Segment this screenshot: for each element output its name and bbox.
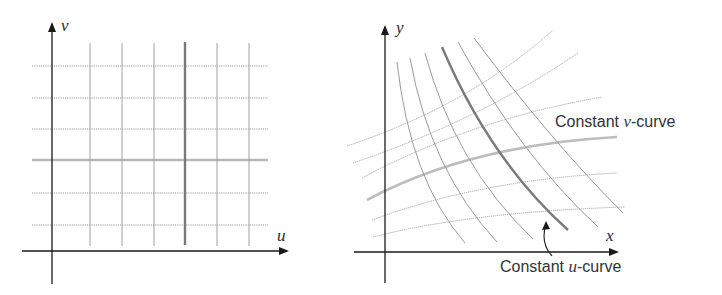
u-axis-label: u xyxy=(277,226,286,246)
xy-plane xyxy=(347,27,625,283)
constant-v-curve xyxy=(353,53,578,163)
label-variable: u xyxy=(568,257,577,276)
constant-u-curve xyxy=(397,62,465,243)
v-axis-label: v xyxy=(61,16,69,36)
label-suffix: -curve xyxy=(577,258,621,275)
uv-grid-horizontal-lines xyxy=(32,66,268,225)
label-variable: v xyxy=(623,112,631,131)
constant-u-curve xyxy=(458,42,598,227)
constant-v-curve xyxy=(362,97,602,178)
label-prefix: Constant xyxy=(500,258,568,275)
constant-v-curve xyxy=(373,207,625,237)
x-axis-label: x xyxy=(606,226,614,246)
uv-plane xyxy=(22,24,287,284)
constant-u-curve xyxy=(425,53,533,239)
uv-grid-vertical-lines xyxy=(90,42,249,246)
label-prefix: Constant xyxy=(555,113,623,130)
y-axis-label: y xyxy=(396,18,404,38)
constant-v-curve-label: Constant v-curve xyxy=(555,112,675,132)
diagram-canvas xyxy=(0,0,722,295)
constant-v-curve-highlighted xyxy=(367,137,617,200)
label-suffix: -curve xyxy=(631,113,675,130)
constant-u-curve-label: Constant u-curve xyxy=(500,257,621,277)
constant-u-curve-highlighted xyxy=(442,47,568,230)
callout-arrowhead xyxy=(542,221,550,230)
constant-u-curves xyxy=(397,38,623,243)
